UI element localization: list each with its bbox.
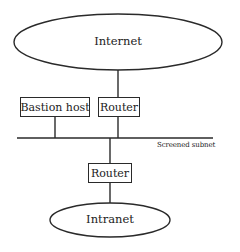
screened-subnet-label: Screened subnet [157,142,215,149]
inner-router-node: Router [88,163,132,183]
outer-router-label: Router [100,102,138,113]
outer-router-node: Router [98,97,140,117]
bastion-host-label: Bastion host [20,102,89,113]
internet-label: Internet [78,36,158,48]
inner-router-label: Router [91,168,129,179]
network-diagram: Internet Bastion host Router Screened su… [0,0,240,252]
intranet-label: Intranet [70,214,150,226]
bastion-host-node: Bastion host [20,97,90,117]
